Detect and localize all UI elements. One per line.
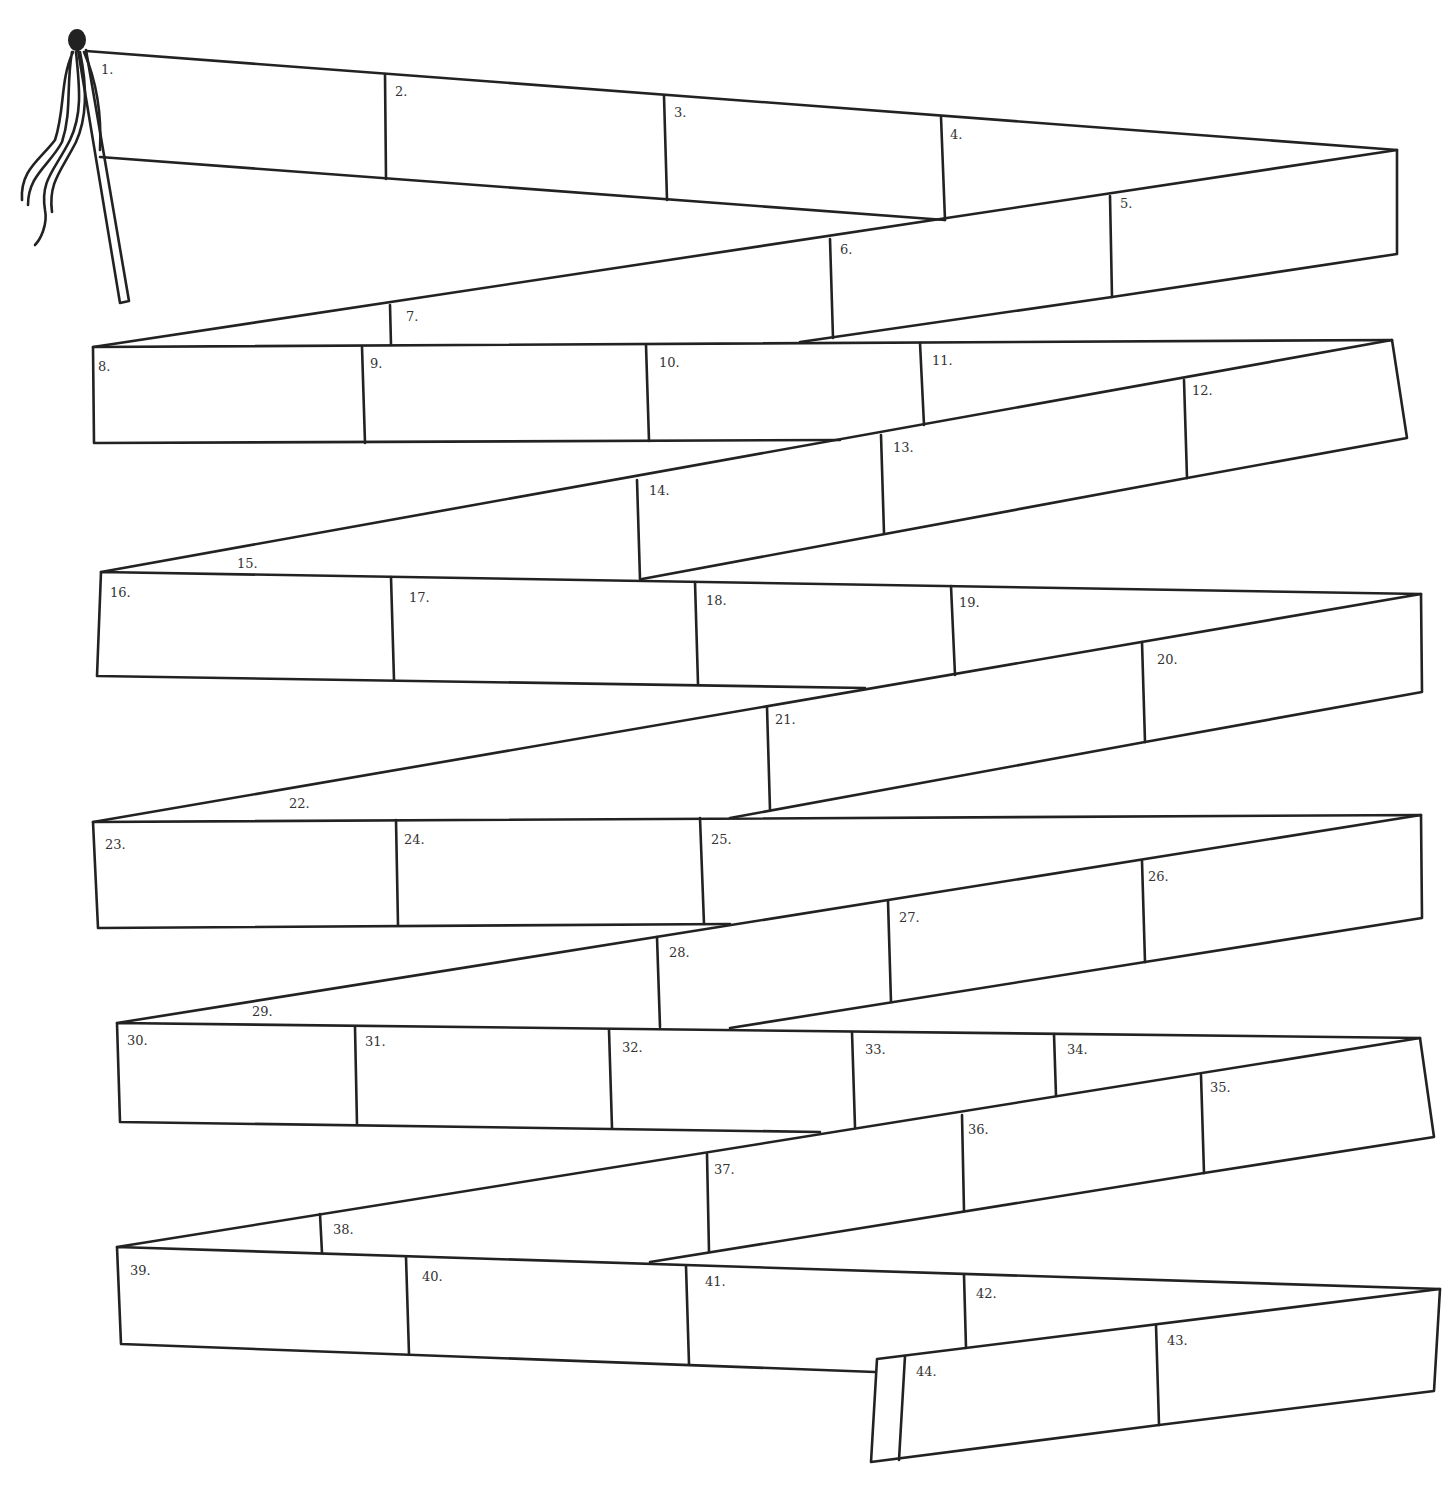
ribbon-worksheet: 1.2.3.4.5.6.7.8.9.10.11.12.13.14.15.16.1… <box>0 0 1451 1497</box>
box-number-label: 8. <box>98 360 110 373</box>
box-number-label: 29. <box>252 1005 273 1018</box>
box-number-label: 4. <box>950 128 962 141</box>
box-number-label: 27. <box>899 911 920 924</box>
box-number-label: 5. <box>1120 197 1132 210</box>
ribbon-segment-3 <box>93 340 1407 478</box>
box-number-label: 38. <box>333 1223 354 1236</box>
box-number-label: 1. <box>101 63 113 76</box>
box-number-label: 6. <box>840 243 852 256</box>
box-number-label: 23. <box>105 838 126 851</box>
box-number-label: 26. <box>1148 870 1169 883</box>
box-number-label: 30. <box>127 1034 148 1047</box>
box-number-label: 22. <box>289 797 310 810</box>
box-number-label: 19. <box>959 596 980 609</box>
ribbon-segment-4 <box>101 340 1392 579</box>
ribbon-segment-11 <box>117 1247 1440 1425</box>
ribbon-drawing <box>0 0 1451 1497</box>
ribbon-segment-6 <box>93 594 1421 822</box>
box-number-label: 43. <box>1167 1334 1188 1347</box>
box-number-label: 13. <box>893 441 914 454</box>
ribbon-segment-12 <box>871 1289 1440 1462</box>
box-number-label: 42. <box>976 1287 997 1300</box>
box-number-label: 28. <box>669 946 690 959</box>
box-number-label: 7. <box>406 310 418 323</box>
box-number-label: 37. <box>714 1163 735 1176</box>
ribbon-segment-10 <box>117 1038 1420 1262</box>
ribbon-segment-2 <box>93 150 1397 347</box>
box-number-label: 36. <box>968 1123 989 1136</box>
box-number-label: 24. <box>404 833 425 846</box>
box-number-label: 39. <box>130 1264 151 1277</box>
box-number-label: 20. <box>1157 653 1178 666</box>
box-number-label: 33. <box>865 1043 886 1056</box>
box-number-label: 31. <box>365 1035 386 1048</box>
box-number-label: 14. <box>649 484 670 497</box>
ribbon-segment-7 <box>93 815 1422 962</box>
ribbon-segment-1 <box>86 51 1397 297</box>
box-number-label: 44. <box>916 1365 937 1378</box>
box-number-label: 9. <box>370 357 382 370</box>
box-number-label: 25. <box>711 833 732 846</box>
box-number-label: 41. <box>705 1275 726 1288</box>
box-number-label: 10. <box>659 356 680 369</box>
box-number-label: 3. <box>674 106 686 119</box>
box-number-label: 21. <box>775 713 796 726</box>
box-number-label: 15. <box>237 557 258 570</box>
box-number-label: 2. <box>395 85 407 98</box>
box-number-label: 35. <box>1210 1081 1231 1094</box>
box-number-label: 16. <box>110 586 131 599</box>
box-number-label: 18. <box>706 594 727 607</box>
ribbon-segment-5 <box>97 572 1422 742</box>
box-number-label: 32. <box>622 1041 643 1054</box>
ribbon-segment-8 <box>117 815 1421 1028</box>
ribbon-segment-9 <box>117 1023 1434 1173</box>
box-number-label: 40. <box>422 1270 443 1283</box>
box-number-label: 17. <box>409 591 430 604</box>
box-number-label: 11. <box>932 354 953 367</box>
box-number-label: 12. <box>1192 384 1213 397</box>
box-number-label: 34. <box>1067 1043 1088 1056</box>
